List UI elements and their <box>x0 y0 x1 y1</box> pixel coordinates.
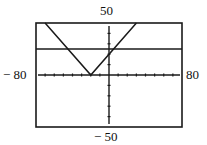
graph-window <box>0 0 207 145</box>
axes <box>38 26 180 124</box>
